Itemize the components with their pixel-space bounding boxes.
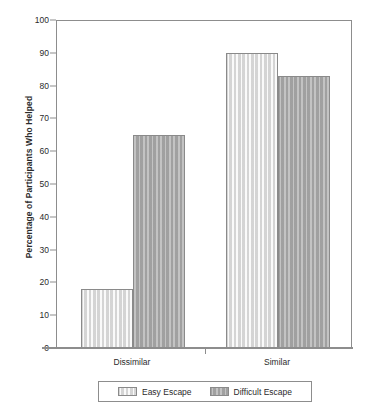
y-tick-label: 60 <box>0 146 56 156</box>
legend-swatch-easy-escape <box>118 387 137 396</box>
y-tick-label: 70 <box>0 113 56 123</box>
legend-label-easy-escape: Easy Escape <box>142 387 192 397</box>
x-axis-line <box>42 347 353 349</box>
x-axis-separator-tick <box>205 348 206 354</box>
y-tick-label: 50 <box>0 179 56 189</box>
y-tick-label: 80 <box>0 81 56 91</box>
y-tick-label: 10 <box>0 310 56 320</box>
x-tick-label-dissimilar: Dissimilar <box>114 357 151 367</box>
y-tick-label: 30 <box>0 245 56 255</box>
legend-item-easy-escape: Easy Escape <box>118 387 192 397</box>
plot-area <box>56 20 352 348</box>
y-tick-label: 20 <box>0 277 56 287</box>
y-tick-label: 90 <box>0 48 56 58</box>
x-tick-label-similar: Similar <box>264 357 290 367</box>
bar-similar-difficult-escape <box>278 76 330 348</box>
bar-chart-figure: Percentage of Participants Who Helped 01… <box>0 0 379 412</box>
bar-similar-easy-escape <box>226 53 278 348</box>
bar-dissimilar-easy-escape <box>81 289 133 348</box>
bar-dissimilar-difficult-escape <box>133 135 185 348</box>
legend-swatch-difficult-escape <box>210 387 229 396</box>
y-tick-label: 100 <box>0 15 56 25</box>
legend-item-difficult-escape: Difficult Escape <box>210 387 292 397</box>
chart-legend: Easy Escape Difficult Escape <box>98 381 312 402</box>
legend-label-difficult-escape: Difficult Escape <box>234 387 292 397</box>
y-tick-label: 40 <box>0 212 56 222</box>
